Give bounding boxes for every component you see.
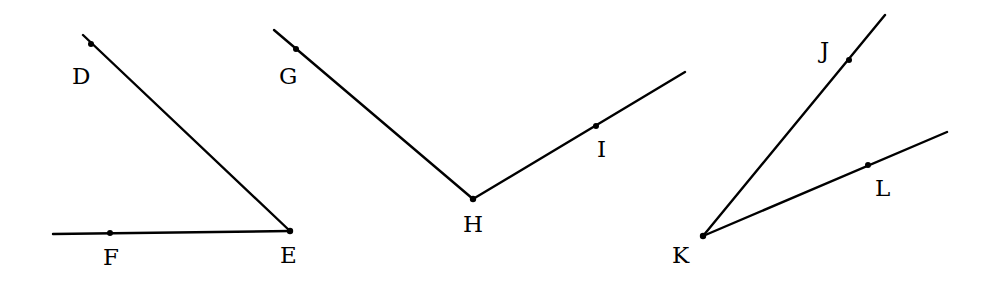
ray-ed [83, 35, 290, 231]
angle-jkl: J L K [672, 15, 947, 268]
point-d [88, 41, 94, 47]
ray-hg [274, 30, 473, 199]
vertex-k [700, 233, 706, 239]
point-j [846, 57, 852, 63]
label-h: H [463, 211, 483, 237]
ray-kl [703, 132, 947, 236]
label-j: J [818, 37, 829, 63]
point-g [293, 46, 299, 52]
label-i: I [597, 136, 606, 162]
angles-diagram: D F E G I H J L K [0, 0, 994, 281]
angle-def: D F E [53, 35, 297, 270]
ray-kj [703, 15, 885, 236]
label-l: L [875, 175, 890, 201]
point-l [865, 162, 871, 168]
label-k: K [672, 242, 690, 268]
point-i [593, 123, 599, 129]
label-d: D [72, 63, 90, 89]
ray-ef [53, 231, 290, 234]
angle-ghi: G I H [274, 30, 685, 237]
ray-hi [473, 72, 685, 199]
label-e: E [280, 242, 297, 268]
point-f [107, 230, 113, 236]
vertex-e [287, 228, 293, 234]
vertex-h [470, 196, 476, 202]
label-g: G [279, 63, 297, 89]
label-f: F [103, 244, 119, 270]
